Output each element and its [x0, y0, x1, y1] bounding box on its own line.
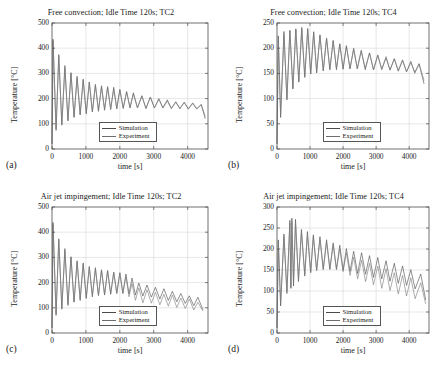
- legend: SimulationExperiment: [99, 306, 157, 326]
- panel-tag: (b): [228, 160, 239, 170]
- x-tick-label: 1000: [69, 152, 103, 161]
- x-tick-label: 2000: [103, 336, 137, 345]
- x-tick-label: 2000: [326, 152, 360, 161]
- x-tick-label: 0: [35, 152, 69, 161]
- y-tick-label: 50: [244, 119, 274, 128]
- y-tick-label: 150: [244, 68, 274, 77]
- legend-swatch: [326, 312, 340, 313]
- legend: SimulationExperiment: [323, 122, 381, 142]
- plot-panel-c: Air jet impingement; Idle Time 120s; TC2…: [0, 190, 222, 379]
- y-tick-label: 200: [244, 244, 274, 253]
- legend-swatch: [326, 320, 340, 321]
- x-tick-label: 0: [260, 152, 294, 161]
- legend: SimulationExperiment: [99, 122, 157, 142]
- legend-swatch: [326, 128, 340, 129]
- legend-label: Simulation: [119, 308, 148, 316]
- legend-label: Experiment: [343, 316, 374, 324]
- y-tick-label: 400: [19, 227, 49, 236]
- legend-label: Experiment: [119, 132, 150, 140]
- y-tick-label: 50: [244, 307, 274, 316]
- legend-swatch: [102, 312, 116, 313]
- legend-label: Simulation: [119, 124, 148, 132]
- x-tick-label: 2000: [326, 336, 360, 345]
- y-axis-label: Temperature [°C]: [10, 67, 19, 123]
- legend-item: Simulation: [102, 124, 153, 132]
- y-tick-label: 100: [244, 94, 274, 103]
- panel-tag: (d): [228, 344, 239, 354]
- x-tick-label: 4000: [171, 336, 205, 345]
- y-tick-label: 200: [19, 278, 49, 287]
- y-axis-label: Temperature [°C]: [235, 251, 244, 307]
- y-tick-label: 250: [244, 223, 274, 232]
- y-tick-label: 500: [19, 202, 49, 211]
- y-tick-label: 100: [19, 303, 49, 312]
- legend-item: Simulation: [102, 308, 153, 316]
- y-tick-label: 300: [19, 68, 49, 77]
- legend-swatch: [102, 136, 116, 137]
- x-tick-label: 0: [35, 336, 69, 345]
- y-tick-label: 150: [244, 265, 274, 274]
- y-tick-label: 100: [244, 286, 274, 295]
- y-axis-label: Temperature [°C]: [10, 251, 19, 307]
- legend-label: Experiment: [343, 132, 374, 140]
- x-tick-label: 0: [260, 336, 294, 345]
- y-tick-label: 500: [19, 18, 49, 27]
- y-tick-label: 300: [19, 252, 49, 261]
- legend-item: Experiment: [102, 316, 153, 324]
- y-axis-label: Temperature [°C]: [235, 67, 244, 123]
- x-tick-label: 2000: [103, 152, 137, 161]
- panel-tag: (c): [6, 344, 17, 354]
- legend-item: Simulation: [326, 124, 377, 132]
- x-tick-label: 3000: [359, 152, 393, 161]
- plot-panel-a: Free convection; Idle Time 120s; TC20100…: [0, 6, 222, 192]
- y-tick-label: 400: [19, 43, 49, 52]
- legend-item: Simulation: [326, 308, 377, 316]
- x-tick-label: 1000: [293, 336, 327, 345]
- y-tick-label: 200: [244, 43, 274, 52]
- x-tick-label: 3000: [359, 336, 393, 345]
- x-axis-label: time [s]: [52, 162, 208, 171]
- x-tick-label: 3000: [137, 152, 171, 161]
- x-tick-label: 4000: [171, 152, 205, 161]
- y-tick-label: 300: [244, 202, 274, 211]
- legend-swatch: [102, 128, 116, 129]
- y-tick-label: 100: [19, 119, 49, 128]
- legend-label: Simulation: [343, 308, 372, 316]
- plot-panel-b: Free convection; Idle Time 120s; TC40501…: [222, 6, 445, 192]
- x-tick-label: 4000: [392, 336, 426, 345]
- y-tick-label: 200: [19, 94, 49, 103]
- legend-label: Experiment: [119, 316, 150, 324]
- figure-four-panel-temperature-plots: Free convection; Idle Time 120s; TC20100…: [0, 0, 445, 379]
- legend-swatch: [102, 320, 116, 321]
- legend-swatch: [326, 136, 340, 137]
- y-tick-label: 250: [244, 18, 274, 27]
- legend-label: Simulation: [343, 124, 372, 132]
- legend: SimulationExperiment: [323, 306, 381, 326]
- legend-item: Experiment: [102, 132, 153, 140]
- legend-item: Experiment: [326, 316, 377, 324]
- x-axis-label: time [s]: [52, 346, 208, 355]
- x-axis-label: time [s]: [277, 346, 429, 355]
- x-tick-label: 4000: [392, 152, 426, 161]
- x-tick-label: 1000: [69, 336, 103, 345]
- legend-item: Experiment: [326, 132, 377, 140]
- x-axis-label: time [s]: [277, 162, 429, 171]
- panel-tag: (a): [6, 160, 17, 170]
- x-tick-label: 1000: [293, 152, 327, 161]
- x-tick-label: 3000: [137, 336, 171, 345]
- plot-panel-d: Air jet impingement; Idle Time 120s; TC4…: [222, 190, 445, 379]
